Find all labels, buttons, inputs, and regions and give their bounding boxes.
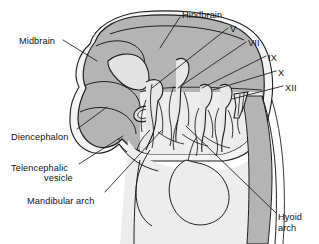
- label-telencephalic-vesicle-line2: vesicle: [44, 173, 73, 184]
- label-hindbrain: Hindbrain: [182, 10, 222, 21]
- label-hyoid-arch-line2: arch: [278, 223, 296, 234]
- label-hyoid-arch-line1: Hyoid: [278, 212, 302, 223]
- label-cranial-nerve-x: X: [278, 68, 284, 78]
- label-mandibular-arch: Mandibular arch: [27, 196, 94, 207]
- label-midbrain: Midbrain: [19, 36, 55, 47]
- label-telencephalic-vesicle-line1: Telencephalic: [11, 163, 68, 174]
- label-cranial-nerve-vii: VII: [248, 38, 260, 48]
- label-cranial-nerve-v: V: [230, 24, 236, 34]
- figure-root: Midbrain Hindbrain Diencephalon Telencep…: [0, 0, 319, 244]
- label-cranial-nerve-ix: IX: [268, 53, 277, 63]
- label-diencephalon: Diencephalon: [11, 132, 68, 143]
- label-cranial-nerve-xii: XII: [285, 83, 297, 93]
